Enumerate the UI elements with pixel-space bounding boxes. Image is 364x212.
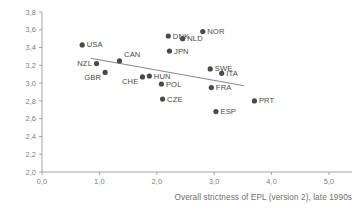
x-axis-title: Overall strictness of EPL (version 2), l…	[174, 193, 352, 202]
scatter-chart: 2,02,22,42,62,83,03,23,43,63,80,01,02,03…	[0, 0, 364, 212]
y-tick-label: 2,2	[25, 150, 36, 159]
y-tick-label: 3,8	[25, 8, 36, 17]
data-point-label: NOR	[207, 27, 225, 36]
data-point-marker[interactable]	[80, 42, 85, 47]
data-point-label: JPN	[174, 47, 189, 56]
x-tick-label: 4,0	[266, 177, 277, 186]
data-point-marker[interactable]	[117, 58, 122, 63]
x-tick-label: 0,0	[37, 177, 48, 186]
data-point-label: CZE	[167, 95, 183, 104]
y-tick-label: 3,2	[25, 61, 36, 70]
data-point-marker[interactable]	[219, 71, 224, 76]
data-point-marker[interactable]	[147, 73, 152, 78]
data-point-label: POL	[166, 80, 182, 89]
chart-canvas: 2,02,22,42,62,83,03,23,43,63,80,01,02,03…	[0, 0, 364, 212]
y-tick-label: 3,6	[25, 25, 36, 34]
x-tick-label: 1,0	[94, 177, 105, 186]
data-point-marker[interactable]	[94, 61, 99, 66]
data-point-marker[interactable]	[166, 33, 171, 38]
y-tick-label: 3,0	[25, 79, 36, 88]
data-point-marker[interactable]	[209, 85, 214, 90]
x-tick-label: 5,0	[324, 177, 335, 186]
data-point-label: GBR	[84, 73, 101, 82]
data-point-label: CAN	[124, 50, 140, 59]
y-tick-label: 3,4	[25, 43, 36, 52]
data-point-marker[interactable]	[200, 29, 205, 34]
data-point-marker[interactable]	[159, 81, 164, 86]
data-points-group: USANZLGBRCANCHEHUNDNKNLDNORJPNPOLCZESWEI…	[77, 27, 274, 116]
data-point-marker[interactable]	[140, 74, 145, 79]
data-point-label: NZL	[77, 59, 92, 68]
data-point-label: PRT	[259, 96, 275, 105]
data-point-label: FRA	[216, 83, 232, 92]
data-point-marker[interactable]	[252, 98, 257, 103]
data-point-marker[interactable]	[180, 36, 185, 41]
data-point-marker[interactable]	[167, 49, 172, 54]
data-point-label: ESP	[220, 107, 236, 116]
data-point-label: ITA	[226, 69, 238, 78]
data-point-label: CHE	[122, 77, 138, 86]
data-point-marker[interactable]	[208, 66, 213, 71]
x-tick-label: 2,0	[152, 177, 163, 186]
y-tick-label: 2,4	[25, 132, 36, 141]
x-tick-label: 3,0	[209, 177, 220, 186]
data-point-marker[interactable]	[213, 109, 218, 114]
y-tick-label: 2,0	[25, 168, 36, 177]
y-tick-label: 2,8	[25, 97, 36, 106]
data-point-marker[interactable]	[160, 97, 165, 102]
y-tick-label: 2,6	[25, 114, 36, 123]
data-point-marker[interactable]	[103, 70, 108, 75]
data-point-label: NLD	[187, 34, 203, 43]
data-point-label: USA	[87, 40, 104, 49]
